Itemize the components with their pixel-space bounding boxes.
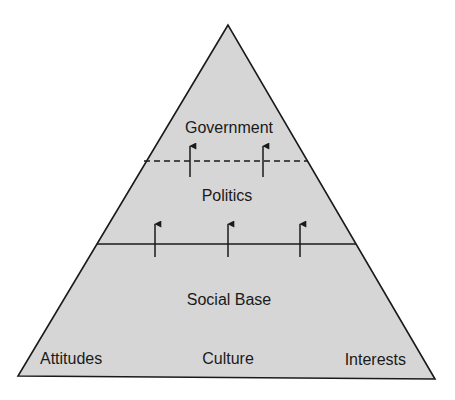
base-label-attitudes: Attitudes [40,350,102,367]
pyramid-canvas: Government Politics Social Base Attitude… [0,0,455,400]
layer-label-government: Government [185,119,274,136]
layer-label-politics: Politics [202,187,253,204]
base-label-interests: Interests [345,351,406,368]
pyramid-diagram: Government Politics Social Base Attitude… [0,0,455,400]
layer-label-social-base: Social Base [187,291,272,308]
base-label-culture: Culture [202,350,254,367]
